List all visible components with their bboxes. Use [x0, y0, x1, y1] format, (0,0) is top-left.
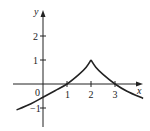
x-tick-label-3: 3	[113, 89, 118, 100]
y-axis-arrow-icon	[41, 10, 46, 17]
function-graph: 1 2 3 0 2 1 −1 y x	[0, 0, 150, 131]
x-tick-label-1: 1	[65, 89, 70, 100]
y-axis-label: y	[33, 6, 39, 17]
x-axis-label: x	[136, 85, 142, 96]
y-tick-label-1: 1	[33, 55, 38, 66]
x-tick-label-2: 2	[89, 89, 94, 100]
y-axis	[41, 10, 46, 127]
origin-label: 0	[35, 87, 40, 98]
x-axis	[13, 82, 143, 87]
y-tick-label-2: 2	[33, 31, 38, 42]
